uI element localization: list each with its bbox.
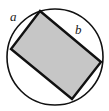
side-a-label: a [10, 10, 17, 23]
inscribed-rectangle-figure: a b [0, 0, 109, 111]
inscribed-rectangle [11, 11, 101, 99]
side-b-label: b [75, 23, 82, 36]
